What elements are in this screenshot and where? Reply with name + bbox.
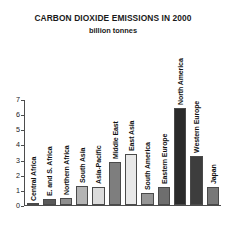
bar-category-label: Middle East — [111, 121, 118, 159]
y-tick-mark — [21, 145, 24, 146]
chart-title: CARBON DIOXIDE EMISSIONS IN 2000 — [0, 13, 226, 23]
x-axis-line — [24, 205, 221, 206]
y-tick-mark — [21, 176, 24, 177]
chart-subtitle: billion tonnes — [0, 26, 226, 35]
bar-category-label: Eastern Europe — [160, 134, 167, 184]
bar-group: South Asia — [76, 100, 88, 205]
bar-series: Central AfricaE. and S. AfricaNorthern A… — [25, 100, 221, 205]
y-tick-label: 0 — [16, 202, 20, 209]
y-tick-label: 5 — [16, 127, 20, 134]
bar-group: North America — [174, 100, 186, 205]
y-tick-label: 7 — [16, 96, 20, 103]
bar-group: Middle East — [109, 100, 121, 205]
bar-group: Japan — [207, 100, 219, 205]
bar-group: Western Europe — [190, 100, 202, 205]
bar[interactable] — [174, 108, 186, 206]
bar-group: Eastern Europe — [158, 100, 170, 205]
bar-category-label: Central Africa — [30, 157, 37, 201]
bar-group: Northern Africa — [60, 100, 72, 205]
bar-group: South America — [141, 100, 153, 205]
bar-group: Asia-Pacific — [92, 100, 104, 205]
y-tick-label: 3 — [16, 157, 20, 164]
y-tick-mark — [21, 206, 24, 207]
bar[interactable] — [125, 154, 137, 205]
y-tick-label: 1 — [16, 187, 20, 194]
bar[interactable] — [27, 203, 39, 205]
bar-group: E. and S. Africa — [43, 100, 55, 205]
bar-group: East Asia — [125, 100, 137, 205]
chart-figure: CARBON DIOXIDE EMISSIONS IN 2000 billion… — [0, 0, 226, 234]
bar-category-label: North America — [177, 58, 184, 105]
y-tick-label: 4 — [16, 142, 20, 149]
bar[interactable] — [76, 186, 88, 205]
bar-category-label: Japan — [209, 164, 216, 184]
bar-category-label: South America — [144, 142, 151, 190]
bar-category-label: Western Europe — [193, 100, 200, 152]
bar-group: Central Africa — [27, 100, 39, 205]
bar-category-label: East Asia — [128, 121, 135, 151]
bar[interactable] — [158, 187, 170, 205]
bar[interactable] — [207, 187, 219, 205]
y-tick-label: 2 — [16, 172, 20, 179]
bar-category-label: Asia-Pacific — [95, 146, 102, 185]
bar[interactable] — [190, 156, 202, 206]
bar-category-label: Northern Africa — [62, 146, 69, 196]
plot-area: 01234567 Central AfricaE. and S. AfricaN… — [24, 100, 221, 206]
bar-category-label: E. and S. Africa — [46, 147, 53, 197]
y-tick-mark — [21, 191, 24, 192]
bar[interactable] — [141, 193, 153, 205]
y-tick-mark — [21, 100, 24, 101]
y-tick-mark — [21, 130, 24, 131]
y-tick-mark — [21, 115, 24, 116]
bar[interactable] — [109, 162, 121, 206]
y-tick-label: 6 — [16, 112, 20, 119]
bar[interactable] — [43, 199, 55, 205]
bar[interactable] — [60, 198, 72, 205]
bar[interactable] — [92, 187, 104, 205]
y-tick-mark — [21, 161, 24, 162]
bar-category-label: South Asia — [79, 148, 86, 183]
